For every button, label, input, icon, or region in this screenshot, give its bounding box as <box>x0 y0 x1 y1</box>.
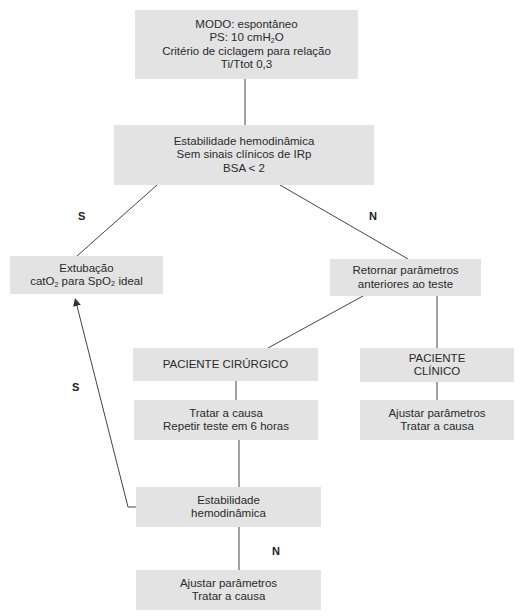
node-criteria: Estabilidade hemodinâmica Sem sinais clí… <box>114 125 374 185</box>
adjust-final-line-2: Tratar a causa <box>192 590 266 604</box>
edge-criteria-extubation <box>77 185 157 256</box>
edge-label-yes: S <box>78 210 85 222</box>
edge-label-no: N <box>369 210 377 222</box>
node-adjust-final: Ajustar parâmetros Tratar a causa <box>136 570 321 610</box>
flowchart-canvas: MODO: espontâneo PS: 10 cmH2O Critério d… <box>0 0 532 616</box>
edge-label-return-yes: S <box>72 381 79 393</box>
edge-return-surgical <box>268 296 363 348</box>
node-stability: Estabilidade hemodinâmica <box>136 487 321 527</box>
treat-line-1: Tratar a causa <box>189 407 263 421</box>
edge-stability-extubation-arrow <box>76 302 136 507</box>
criteria-line-3: BSA < 2 <box>223 162 265 176</box>
adjust-clinical-line-1: Ajustar parâmetros <box>388 407 485 421</box>
extubation-line-2: catO2 para SpO₂ ideal <box>30 275 143 289</box>
extubation-line-1: Extubação <box>59 262 113 276</box>
adjust-final-line-1: Ajustar parâmetros <box>180 577 277 591</box>
criteria-line-2: Sem sinais clínicos de IRp <box>177 148 312 162</box>
surgical-label: PACIENTE CIRÚRGICO <box>163 358 289 372</box>
node-extubation: Extubação catO2 para SpO₂ ideal <box>10 256 163 294</box>
node-start-settings: MODO: espontâneo PS: 10 cmH2O Critério d… <box>135 10 358 79</box>
stability-line-1: Estabilidade <box>197 494 260 508</box>
edge-label-final-no: N <box>272 545 280 557</box>
clinical-line-2: CLÍNICO <box>414 365 461 379</box>
node-clinical-patient: PACIENTE CLÍNICO <box>360 348 514 382</box>
return-line-1: Retornar parâmetros <box>352 264 458 278</box>
stability-line-2: hemodinâmica <box>191 507 266 521</box>
return-line-2: anteriores ao teste <box>358 278 453 292</box>
edge-criteria-return <box>280 185 408 259</box>
node-treat-repeat: Tratar a causa Repetir teste em 6 horas <box>134 400 318 440</box>
node-surgical-patient: PACIENTE CIRÚRGICO <box>133 348 318 381</box>
clinical-line-1: PACIENTE <box>409 352 466 366</box>
start-ratio-text: Ti/Ttot 0,3 <box>221 58 272 72</box>
adjust-clinical-line-2: Tratar a causa <box>400 420 474 434</box>
treat-line-2: Repetir teste em 6 horas <box>163 420 289 434</box>
criteria-line-1: Estabilidade hemodinâmica <box>174 135 315 149</box>
start-ps-text: PS: 10 cmH2O <box>209 31 283 45</box>
node-return-params: Retornar parâmetros anteriores ao teste <box>330 259 481 296</box>
node-adjust-clinical: Ajustar parâmetros Tratar a causa <box>360 400 514 440</box>
start-criteria-text: Critério de ciclagem para relação <box>162 45 331 59</box>
start-mode-text: MODO: espontâneo <box>195 18 297 32</box>
